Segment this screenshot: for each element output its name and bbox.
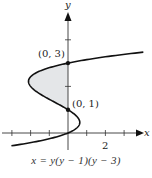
y-axis-label: y: [64, 0, 71, 10]
x-axis-arrow-icon: [136, 130, 144, 137]
parametric-plot: x y (0, 3) (0, 1) 2: [0, 0, 152, 178]
point-marker: [66, 61, 70, 65]
shaded-region: [29, 63, 69, 110]
point-label-0-1: (0, 1): [72, 98, 99, 109]
point-label-0-3: (0, 3): [38, 48, 65, 59]
y-axis-arrow-icon: [65, 12, 72, 21]
x-axis-label: x: [144, 127, 150, 138]
equation-caption: x = y(y − 1)(y − 3): [0, 154, 152, 166]
x-tick-label-2: 2: [102, 140, 108, 151]
point-marker: [66, 108, 70, 112]
